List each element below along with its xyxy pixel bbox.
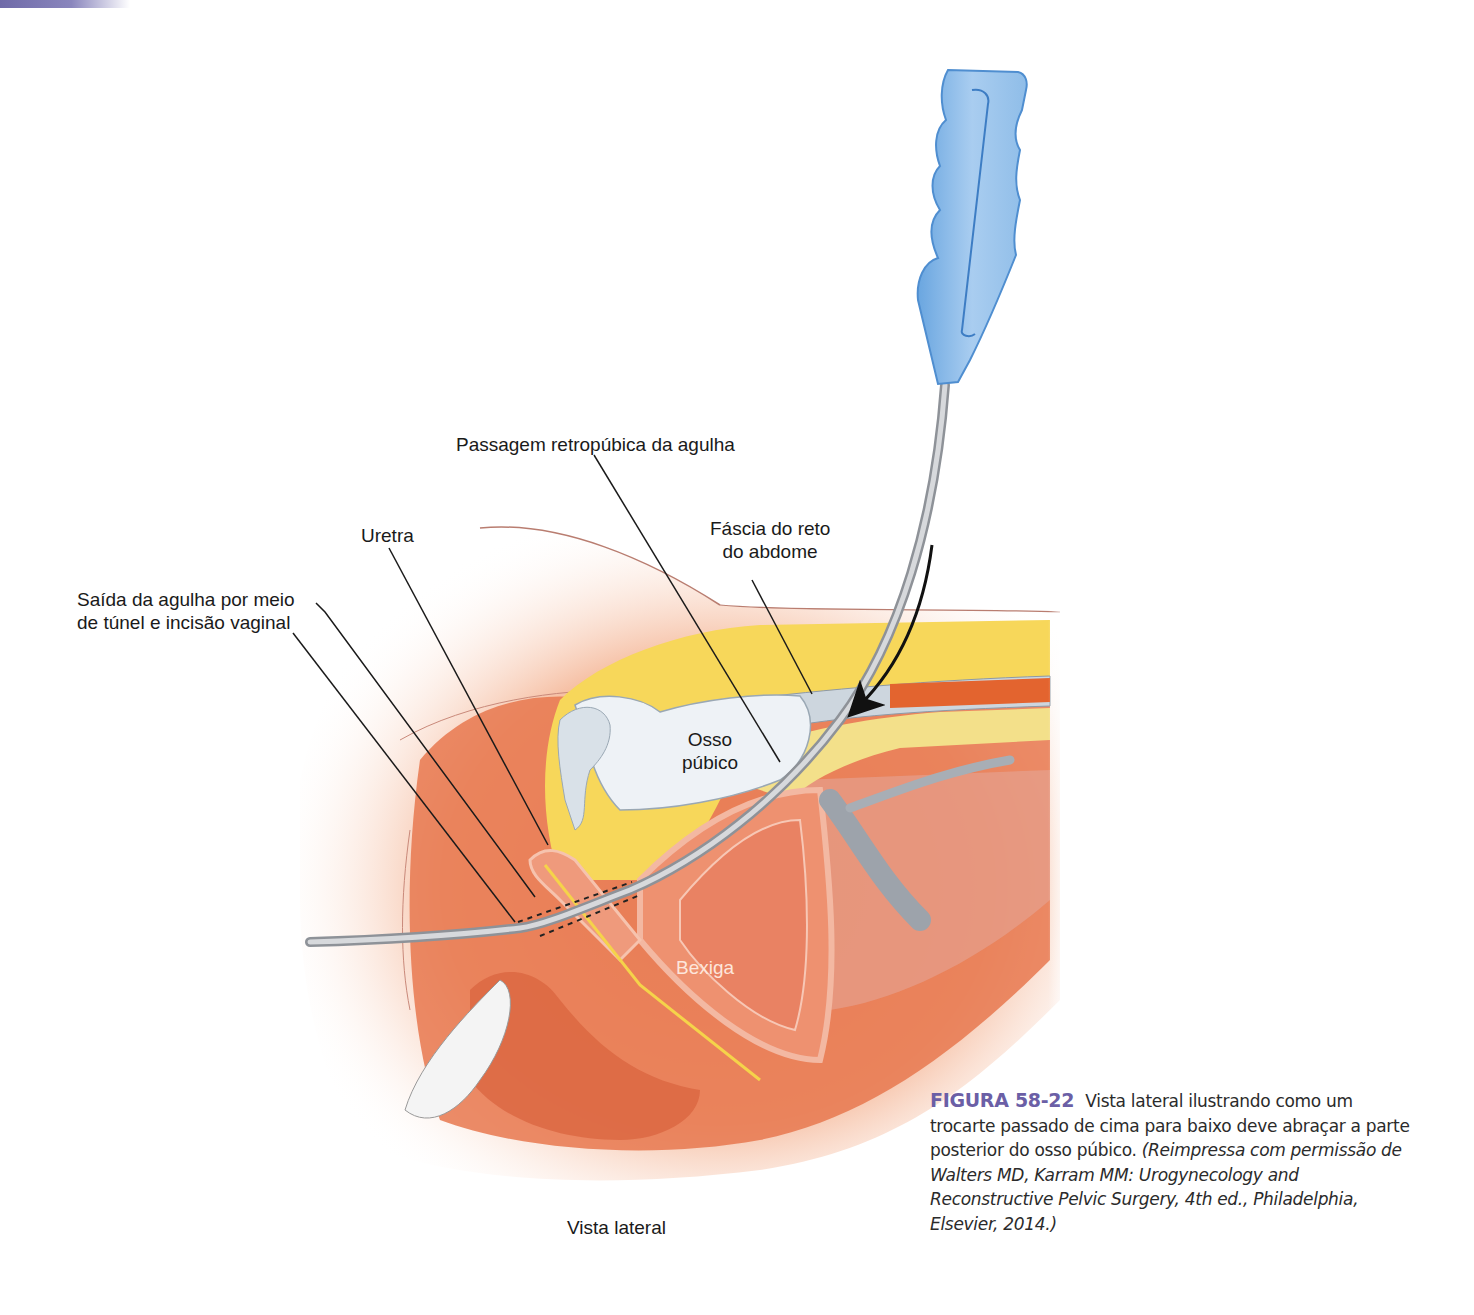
label-needle-exit: Saída da agulha por meio de túnel e inci…	[77, 588, 295, 634]
label-needle-exit-line2: de túnel e incisão vaginal	[77, 611, 295, 634]
label-pubic-bone-line2: púbico	[670, 751, 750, 774]
figure-caption: FIGURA 58-22 Vista lateral ilustrando co…	[930, 1088, 1410, 1236]
label-pubic-bone: Osso púbico	[670, 728, 750, 774]
label-rectus-fascia-line1: Fáscia do reto	[710, 517, 830, 540]
label-bladder: Bexiga	[676, 956, 734, 979]
label-needle-exit-line1: Saída da agulha por meio	[77, 588, 295, 611]
label-retropubic-passage: Passagem retropúbica da agulha	[456, 433, 735, 456]
trocar-handle	[918, 70, 1027, 384]
label-rectus-fascia-line2: do abdome	[710, 540, 830, 563]
figure-number: FIGURA 58-22	[930, 1089, 1074, 1111]
label-rectus-fascia: Fáscia do reto do abdome	[710, 517, 830, 563]
label-view: Vista lateral	[567, 1216, 666, 1239]
label-pubic-bone-line1: Osso	[670, 728, 750, 751]
label-urethra: Uretra	[361, 524, 414, 547]
